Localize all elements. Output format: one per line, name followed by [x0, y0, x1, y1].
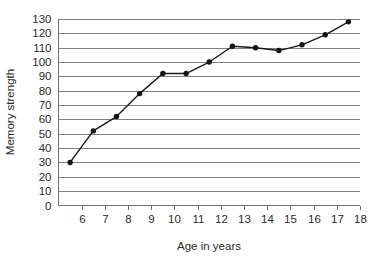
y-tick-label: 90	[39, 70, 52, 82]
x-tick-label: 7	[102, 213, 108, 225]
x-tick-label: 8	[125, 213, 131, 225]
data-point	[230, 44, 235, 49]
x-tick-label: 6	[79, 213, 85, 225]
y-tick-label: 110	[33, 42, 51, 54]
y-tick-label: 130	[32, 13, 51, 25]
data-point	[207, 59, 212, 64]
x-tick-label: 16	[308, 213, 321, 225]
chart-canvas: 0102030405060708090100110120130 67891011…	[0, 0, 375, 267]
y-tick-label: 80	[39, 85, 52, 97]
y-tick-label: 100	[32, 56, 51, 68]
data-point	[323, 32, 328, 37]
x-tick-label: 11	[193, 213, 205, 225]
x-tick-label: 13	[238, 213, 251, 225]
data-point	[137, 91, 142, 96]
y-tick-label: 30	[39, 156, 52, 168]
x-tick-label: 18	[354, 213, 367, 225]
data-point	[276, 48, 281, 53]
y-tick-label: 70	[39, 99, 52, 111]
y-tick-label: 10	[39, 185, 52, 197]
data-point	[114, 114, 119, 119]
x-tick-label: 17	[331, 213, 344, 225]
data-point	[91, 128, 96, 133]
y-tick-label: 60	[39, 113, 52, 125]
data-point	[299, 42, 304, 47]
y-tick-label: 0	[45, 200, 51, 212]
y-tick-label: 120	[32, 27, 51, 39]
y-tick-label: 20	[39, 171, 52, 183]
data-point	[67, 160, 72, 165]
x-tick-label: 10	[168, 213, 181, 225]
x-tick-label: 15	[284, 213, 297, 225]
data-point	[160, 71, 165, 76]
x-tick-label: 9	[148, 213, 154, 225]
x-axis-title: Age in years	[177, 240, 241, 252]
chart-background	[0, 0, 375, 267]
y-axis-title: Memory strength	[4, 69, 16, 155]
data-point	[183, 71, 188, 76]
data-point	[346, 19, 351, 24]
x-tick-label: 12	[215, 213, 228, 225]
data-point	[253, 45, 258, 50]
x-tick-label: 14	[261, 213, 274, 225]
line-chart-figure: 0102030405060708090100110120130 67891011…	[0, 0, 375, 267]
y-tick-label: 50	[39, 128, 52, 140]
y-tick-label: 40	[39, 142, 52, 154]
